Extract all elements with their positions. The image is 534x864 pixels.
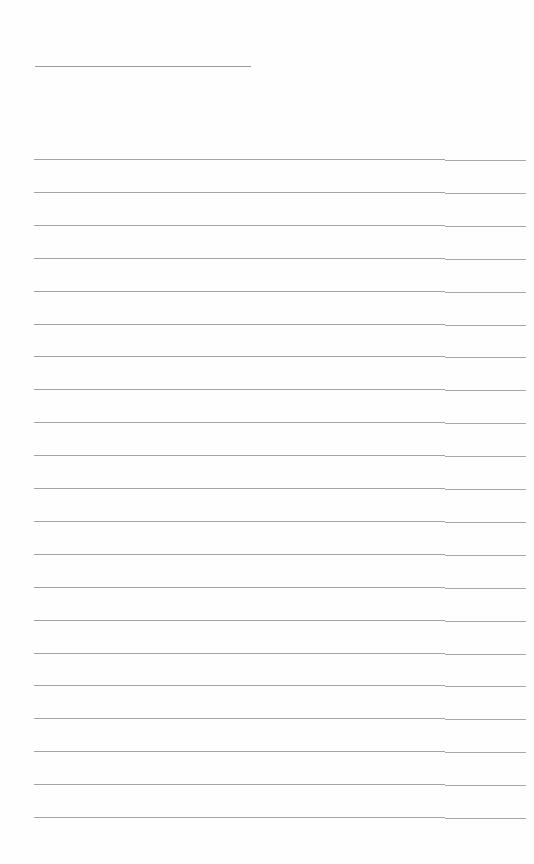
writing-line <box>34 488 526 489</box>
writing-line <box>34 389 526 390</box>
writing-line <box>34 521 526 522</box>
writing-line <box>34 653 526 654</box>
lined-page <box>0 0 534 864</box>
writing-line <box>34 159 526 160</box>
writing-line <box>34 718 526 719</box>
writing-line <box>34 817 526 818</box>
writing-line <box>34 422 526 423</box>
writing-line <box>34 751 526 752</box>
writing-line <box>34 685 526 686</box>
writing-line <box>34 324 526 325</box>
writing-line <box>34 192 526 193</box>
writing-line <box>34 291 526 292</box>
writing-line <box>34 356 526 357</box>
writing-line <box>34 587 526 588</box>
writing-line <box>34 258 526 259</box>
writing-line <box>34 554 526 555</box>
title-underline <box>35 66 251 67</box>
writing-line <box>34 225 526 226</box>
writing-line <box>34 455 526 456</box>
writing-line <box>34 784 526 785</box>
writing-line <box>34 620 526 621</box>
